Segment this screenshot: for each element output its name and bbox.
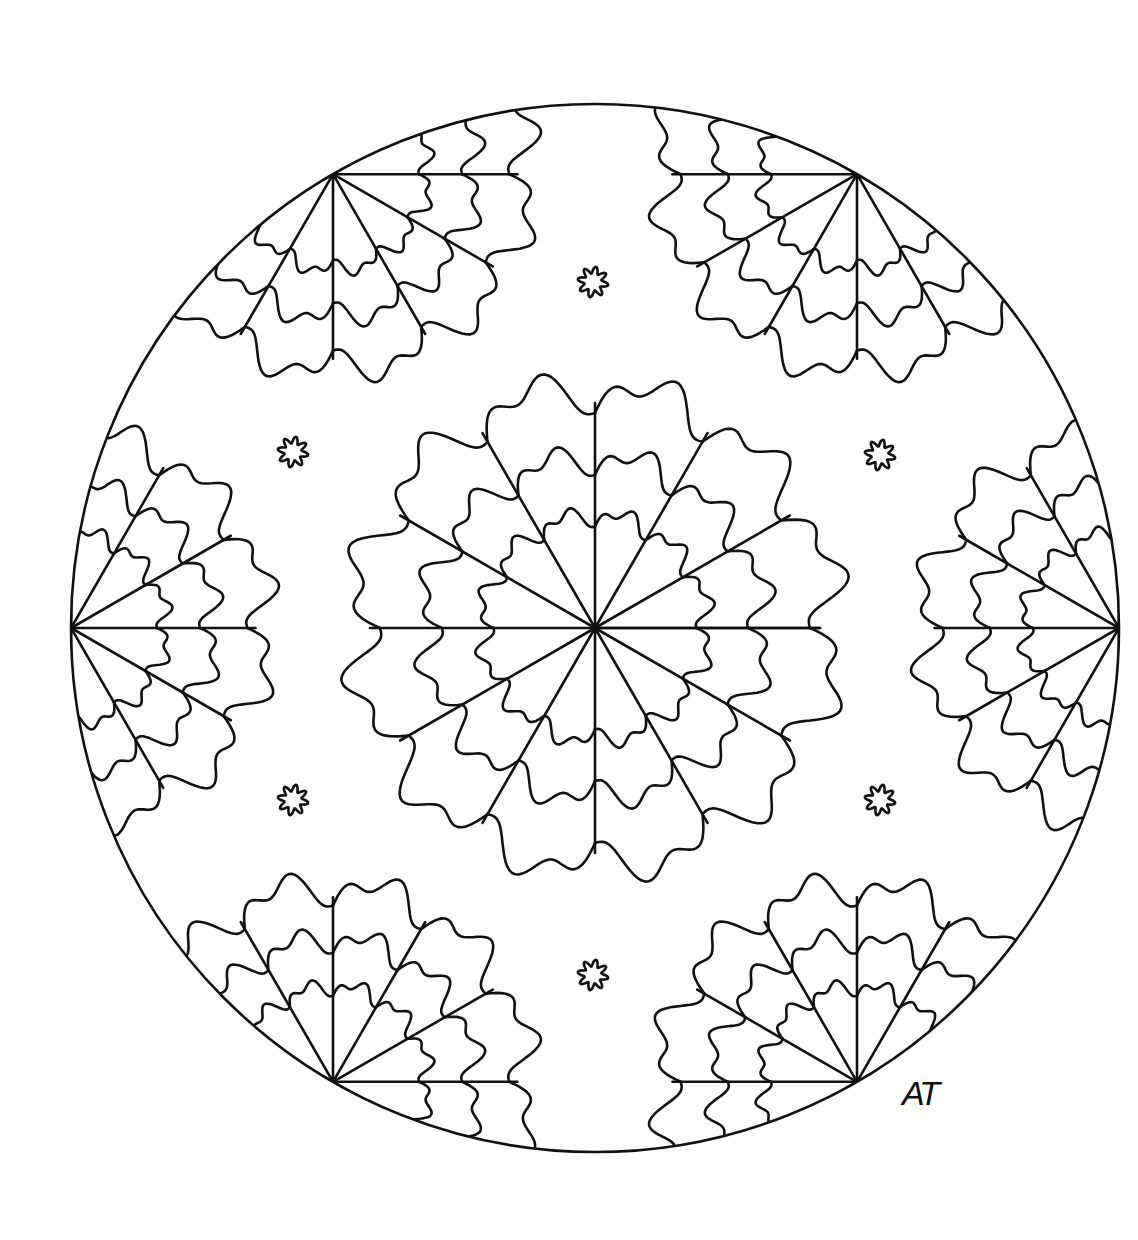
petal-outline	[414, 628, 462, 705]
petal-outline	[758, 1039, 782, 1082]
spoke-line	[483, 628, 596, 823]
petal-outline	[971, 564, 1007, 629]
fan-right	[911, 420, 1119, 830]
petal-outline	[445, 1017, 486, 1082]
petal-outline	[453, 489, 518, 552]
spoke-line	[765, 174, 857, 334]
petal-outline	[333, 880, 421, 930]
petal-outline	[922, 239, 977, 292]
petal-outline	[224, 539, 279, 628]
petal-outline	[333, 249, 376, 276]
petal-outline	[71, 480, 136, 516]
spoke-line	[595, 516, 790, 629]
petal-outline	[486, 1082, 535, 1170]
fan-top-left	[173, 82, 541, 382]
spoke-line	[241, 174, 333, 334]
spoke-line	[400, 628, 595, 741]
petal-outline	[1030, 420, 1119, 475]
petal-outline	[705, 174, 746, 239]
petal-outline	[649, 1082, 704, 1171]
rosette-icon	[278, 785, 308, 815]
petal-outline	[1020, 585, 1044, 628]
petal-outline	[486, 174, 535, 262]
petal-outline	[911, 628, 966, 717]
petal-outline	[71, 426, 159, 475]
petal-outline	[456, 705, 519, 770]
petal-outline	[956, 468, 1031, 540]
petal-outline	[146, 585, 173, 628]
fan-left	[71, 426, 279, 836]
petal-outline	[1041, 671, 1076, 708]
petal-outline	[349, 521, 409, 629]
spoke-line	[1027, 628, 1119, 788]
petal-outline	[479, 577, 508, 628]
rosette-icon	[865, 440, 895, 470]
petal-outline	[703, 736, 795, 824]
spoke-line	[71, 628, 231, 720]
petal-outline	[769, 327, 857, 377]
petal-outline	[857, 327, 946, 382]
rosette-icon	[578, 960, 608, 990]
spoke-line	[697, 990, 857, 1082]
petal-outline	[694, 922, 769, 994]
petal-outline	[646, 679, 689, 721]
petal-outline	[290, 980, 333, 1007]
rosette-icon	[278, 437, 308, 467]
spoke-line	[595, 628, 790, 741]
petal-outline	[737, 965, 792, 1018]
petal-outline	[793, 286, 858, 322]
petal-outline	[445, 109, 486, 174]
petal-outline	[595, 814, 703, 881]
petal-outline	[646, 534, 688, 577]
petal-outline	[333, 934, 398, 970]
petal-outline	[595, 453, 672, 496]
petal-outline	[487, 374, 595, 441]
petal-outline	[655, 994, 704, 1082]
spoke-line	[333, 174, 493, 266]
spoke-line	[595, 628, 708, 823]
petal-outline	[709, 110, 745, 175]
petal-outline	[170, 922, 245, 994]
rosette-icon	[578, 267, 608, 297]
spoke-line	[1027, 468, 1119, 628]
petal-outline	[216, 239, 269, 294]
petal-outline	[595, 382, 703, 442]
petal-outline	[1018, 628, 1045, 671]
petal-outline	[792, 930, 857, 971]
petal-outline	[697, 262, 769, 337]
petal-outline	[1054, 476, 1119, 517]
petal-outline	[683, 628, 712, 679]
petal-outline	[333, 983, 376, 1007]
petal-outline	[922, 962, 975, 1017]
petal-outline	[857, 934, 922, 970]
petal-outline	[857, 286, 922, 327]
petal-outline	[709, 1017, 745, 1082]
petal-outline	[224, 628, 273, 716]
spoke-line	[959, 536, 1119, 628]
petal-outline	[445, 174, 481, 239]
mandala-canvas: AT	[0, 0, 1138, 1240]
petal-outline	[518, 447, 595, 495]
petal-outline	[136, 693, 191, 746]
petal-outline	[71, 740, 136, 781]
petal-outline	[595, 716, 646, 748]
petal-outline	[1039, 550, 1076, 585]
spoke-line	[595, 433, 708, 628]
petal-outline	[728, 628, 771, 705]
petal-outline	[703, 429, 791, 521]
spoke-line	[71, 468, 163, 628]
petal-outline	[376, 217, 413, 252]
petal-outline	[159, 716, 234, 788]
petal-outline	[244, 874, 333, 929]
spoke-line	[71, 628, 163, 788]
fan-bottom-right	[649, 874, 1017, 1174]
petal-outline	[341, 628, 408, 736]
petal-outline	[740, 239, 793, 294]
petal-outline	[781, 520, 848, 628]
petal-outline	[814, 249, 857, 273]
petal-outline	[421, 262, 496, 334]
petal-outline	[768, 874, 857, 929]
petal-outline	[396, 433, 488, 521]
petal-outline	[269, 286, 334, 322]
petal-outline	[398, 239, 453, 292]
